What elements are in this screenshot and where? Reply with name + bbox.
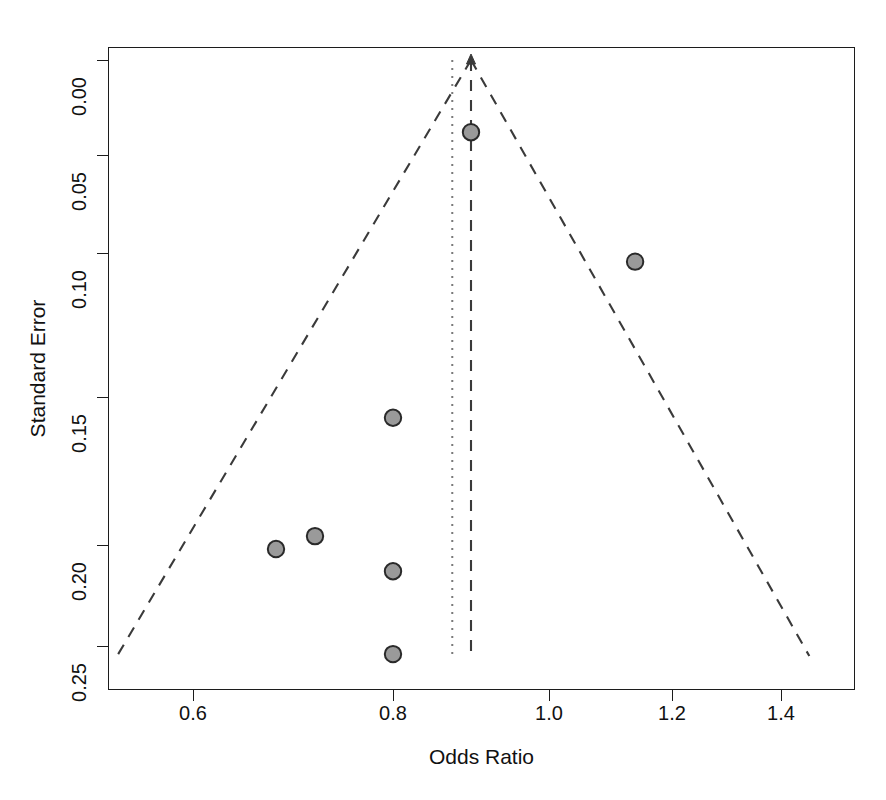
- y-axis-tick: [97, 397, 108, 398]
- data-point-marker[interactable]: [307, 528, 323, 544]
- data-point-marker[interactable]: [463, 124, 479, 140]
- x-axis-tick-label: 1.2: [658, 702, 686, 725]
- data-point-marker[interactable]: [627, 253, 643, 269]
- x-axis-tick: [549, 690, 550, 701]
- y-axis-tick: [97, 545, 108, 546]
- y-axis-tick: [97, 253, 108, 254]
- x-axis-tick-label: 1.0: [535, 702, 563, 725]
- x-axis-tick-label: 0.8: [379, 702, 407, 725]
- plot-area-frame: [108, 47, 855, 690]
- x-axis-tick: [393, 690, 394, 701]
- x-axis-tick-label: 1.4: [767, 702, 795, 725]
- y-axis-tick: [97, 60, 108, 61]
- data-point-marker[interactable]: [268, 541, 284, 557]
- x-axis-tick: [672, 690, 673, 701]
- y-axis-tick-label: 0.15: [68, 399, 91, 469]
- funnel-plot-figure: 0.000.050.100.150.200.250.60.81.01.21.4 …: [0, 0, 886, 800]
- y-axis-tick: [97, 646, 108, 647]
- y-axis-tick-label: 0.25: [68, 648, 91, 718]
- data-point-marker[interactable]: [385, 563, 401, 579]
- y-axis-tick-label: 0.10: [68, 255, 91, 325]
- data-point-marker[interactable]: [385, 646, 401, 662]
- y-axis-title: Standard Error: [26, 47, 50, 690]
- x-axis-title: Odds Ratio: [108, 745, 855, 769]
- x-axis-tick-label: 0.6: [179, 702, 207, 725]
- y-axis-tick-label: 0.00: [68, 62, 91, 132]
- y-axis-tick: [97, 155, 108, 156]
- x-axis-tick: [193, 690, 194, 701]
- data-point-marker[interactable]: [385, 410, 401, 426]
- y-axis-tick-label: 0.05: [68, 157, 91, 227]
- y-axis-tick-label: 0.20: [68, 547, 91, 617]
- x-axis-tick: [781, 690, 782, 701]
